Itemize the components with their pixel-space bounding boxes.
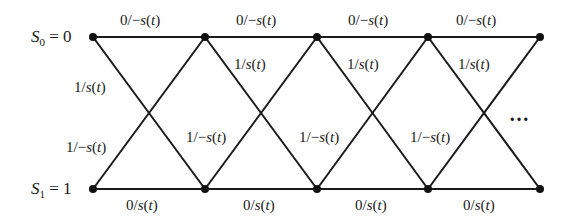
- down-branch-label-3: 1/s(t): [347, 57, 379, 72]
- down-branch-label-1: 1/s(t): [74, 80, 106, 95]
- top-branch-label-3: 0/−s(t): [348, 13, 388, 28]
- trellis-lines: [0, 0, 568, 221]
- state-symbol: S: [31, 27, 40, 46]
- state-label-s1: S1 = 1: [31, 180, 72, 200]
- trellis-diagram: S0 = 0 S1 = 1 0/−s(t) 0/−s(t) 0/−s(t) 0/…: [0, 0, 568, 221]
- top-branch-label-4: 0/−s(t): [456, 13, 496, 28]
- state-value: = 0: [49, 27, 71, 46]
- bottom-branch-label-3: 0/s(t): [355, 198, 387, 213]
- node-s1-t2: [313, 185, 321, 193]
- bottom-branch-label-2: 0/s(t): [243, 198, 275, 213]
- node-s1-t0: [89, 185, 97, 193]
- bottom-branch-label-4: 0/s(t): [463, 198, 495, 213]
- down-branch-label-2: 1/s(t): [234, 57, 266, 72]
- top-branch-label-2: 0/−s(t): [236, 13, 276, 28]
- continuation-ellipsis: …: [509, 103, 530, 126]
- down-branch-label-4: 1/s(t): [458, 57, 490, 72]
- node-s0-t1: [201, 33, 209, 41]
- node-s0-t2: [313, 33, 321, 41]
- node-s1-t4: [536, 185, 544, 193]
- up-branch-label-3: 1/−s(t): [299, 130, 339, 145]
- top-branch-label-1: 0/−s(t): [120, 13, 160, 28]
- node-s0-t3: [424, 33, 432, 41]
- up-branch-label-2: 1/−s(t): [186, 130, 226, 145]
- node-s1-t3: [424, 185, 432, 193]
- up-branch-label-4: 1/−s(t): [410, 130, 450, 145]
- node-s0-t0: [89, 33, 97, 41]
- state-subscript: 1: [40, 188, 46, 200]
- state-label-s0: S0 = 0: [31, 28, 72, 48]
- node-s1-t1: [201, 185, 209, 193]
- state-symbol: S: [31, 179, 40, 198]
- node-s0-t4: [536, 33, 544, 41]
- state-value: = 1: [49, 179, 71, 198]
- state-subscript: 0: [40, 36, 46, 48]
- bottom-branch-label-1: 0/s(t): [126, 198, 158, 213]
- up-branch-label-1: 1/−s(t): [66, 140, 106, 155]
